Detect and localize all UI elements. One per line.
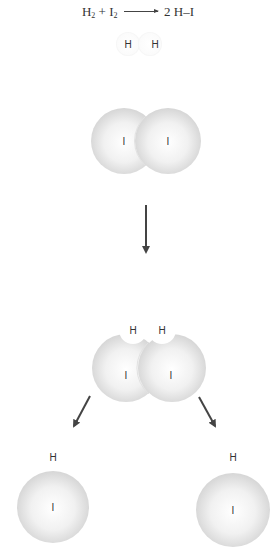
i-label: I xyxy=(167,136,170,147)
h-label: H xyxy=(124,39,131,50)
transition-complex: H H I I xyxy=(92,316,206,402)
hi-molecule-left: H I xyxy=(17,448,89,543)
i-label: I xyxy=(232,505,235,516)
h-label: H xyxy=(151,39,158,50)
i-atom xyxy=(138,334,206,402)
h-label: H xyxy=(229,452,236,463)
h-label: H xyxy=(129,325,136,336)
down-left-arrow-icon xyxy=(74,396,90,426)
h-label: H xyxy=(49,452,56,463)
i-label: I xyxy=(170,370,173,381)
i2-molecule: I I xyxy=(91,108,201,174)
reaction-diagram: H H I I H H I I H I H I xyxy=(0,0,276,550)
down-right-arrow-icon xyxy=(199,397,215,426)
i-label: I xyxy=(52,502,55,513)
hi-molecule-right: H I xyxy=(196,450,270,547)
i-label: I xyxy=(123,136,126,147)
i-label: I xyxy=(125,370,128,381)
h2-molecule: H H xyxy=(116,32,162,56)
h-label: H xyxy=(158,325,165,336)
